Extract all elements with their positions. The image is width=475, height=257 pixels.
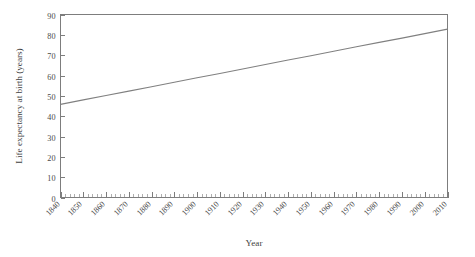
y-axis-tick-labels: 0102030405060708090 [47, 12, 55, 204]
x-tick-label: 1860 [89, 200, 107, 218]
y-tick-label: 10 [47, 174, 55, 183]
chart-figure: 1840185018601870188018901900191019201930… [0, 0, 475, 257]
y-tick-label: 20 [47, 154, 55, 163]
x-tick-label: 1950 [294, 200, 312, 218]
y-axis-label: Life expectancy at birth (years) [14, 48, 24, 163]
x-tick-label: 1870 [112, 200, 130, 218]
x-tick-label: 2010 [431, 200, 449, 218]
y-tick-label: 90 [47, 12, 55, 21]
y-tick-label: 60 [47, 73, 55, 82]
x-tick-label: 1890 [157, 200, 175, 218]
x-tick-label: 1980 [362, 200, 380, 218]
y-tick-label: 50 [47, 93, 55, 102]
x-tick-label: 1940 [271, 200, 289, 218]
x-axis-tick-labels: 1840185018601870188018901900191019201930… [44, 200, 449, 218]
x-tick-label: 1910 [203, 200, 221, 218]
x-tick-label: 1920 [226, 200, 244, 218]
x-axis-minor-ticks [62, 194, 449, 198]
y-tick-label: 40 [47, 113, 55, 122]
x-axis-major-ticks [62, 192, 449, 198]
x-tick-label: 1850 [66, 200, 84, 218]
y-tick-label: 80 [47, 32, 55, 41]
x-tick-label: 1880 [135, 200, 153, 218]
x-axis-label: Year [246, 238, 263, 248]
x-tick-label: 1960 [317, 200, 335, 218]
y-axis-major-ticks [61, 16, 66, 199]
y-tick-label: 30 [47, 134, 55, 143]
x-tick-label: 1970 [339, 200, 357, 218]
x-tick-label: 1930 [248, 200, 266, 218]
plot-frame [61, 15, 448, 198]
x-tick-label: 2000 [408, 200, 426, 218]
data-series-line [61, 29, 448, 104]
x-tick-label: 1990 [385, 200, 403, 218]
y-tick-label: 70 [47, 52, 55, 61]
line-chart: 1840185018601870188018901900191019201930… [0, 0, 475, 257]
x-tick-label: 1900 [180, 200, 198, 218]
y-tick-label: 0 [51, 195, 55, 204]
